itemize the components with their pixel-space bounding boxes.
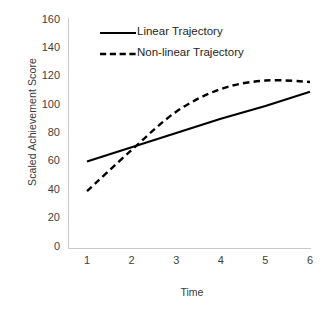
legend-line-icon [100, 46, 136, 58]
line-chart-figure: Scaled Achievement Score 020406080100120… [0, 0, 328, 315]
legend-label: Linear Trajectory [136, 25, 223, 37]
legend-label: Non-linear Trajectory [136, 46, 244, 58]
series-line-linear-trajectory [87, 92, 310, 162]
x-tick-label: 3 [161, 254, 191, 266]
legend-item: Linear Trajectory [100, 20, 244, 41]
x-axis-title: Time [68, 286, 316, 298]
x-tick-label: 6 [295, 254, 325, 266]
x-tick-label: 1 [72, 254, 102, 266]
series-line-non-linear-trajectory [87, 80, 310, 191]
x-tick-label: 5 [250, 254, 280, 266]
legend-item: Non-linear Trajectory [100, 41, 244, 62]
chart-legend: Linear TrajectoryNon-linear Trajectory [100, 20, 244, 62]
x-tick-label: 2 [117, 254, 147, 266]
legend-line-icon [100, 25, 136, 37]
x-tick-label: 4 [206, 254, 236, 266]
